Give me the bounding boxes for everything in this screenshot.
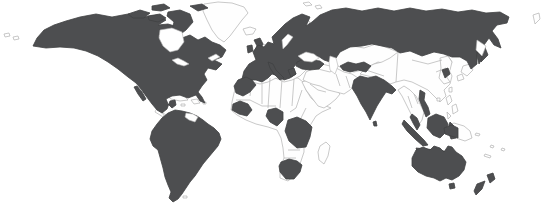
region-falklands (183, 196, 187, 198)
region-vanuatu (490, 145, 494, 148)
region-taiwan (449, 87, 452, 92)
region-west-papua (444, 125, 458, 138)
region-jamaica (181, 104, 185, 106)
region-nz-south-island (474, 181, 485, 195)
region-madagascar (318, 142, 330, 164)
region-hispaniola (191, 99, 200, 104)
region-greenland (203, 2, 248, 42)
region-bering-islets (4, 33, 10, 37)
region-bering-islets-2 (13, 36, 19, 40)
region-philippines-luzon (446, 95, 452, 105)
region-hainan (437, 98, 440, 101)
region-chukotka-edge (533, 13, 540, 24)
region-iceland (243, 27, 256, 35)
region-ireland (247, 45, 253, 53)
region-svalbard-2 (315, 5, 322, 9)
region-arctic-island-banks (152, 4, 170, 11)
region-borneo (427, 114, 448, 138)
region-svalbard (303, 2, 312, 6)
region-north-america (33, 14, 226, 113)
region-uzbekistan (340, 62, 371, 72)
region-fiji (501, 148, 505, 151)
region-new-caledonia (484, 154, 491, 158)
region-south-america (150, 110, 221, 202)
region-australia (412, 146, 466, 181)
region-solomons (475, 133, 480, 136)
region-sri-lanka (373, 121, 377, 126)
region-tasmania (449, 183, 455, 189)
region-philippines-palawan (447, 112, 451, 119)
region-nz-north-island (487, 173, 495, 183)
world-map-screenshot (0, 0, 542, 219)
world-map (0, 0, 542, 219)
region-philippines-mindanao (452, 104, 458, 114)
region-japan-kyushu (457, 74, 464, 81)
